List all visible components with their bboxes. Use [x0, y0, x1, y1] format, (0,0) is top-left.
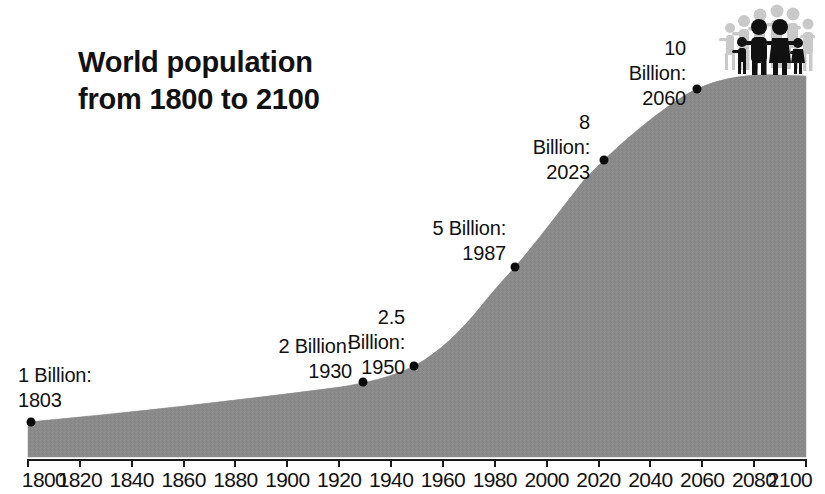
data-point-1803[interactable]	[27, 418, 36, 427]
x-axis-label-2100: 2100	[768, 468, 812, 492]
x-axis-label-2060: 2060	[680, 468, 724, 492]
x-axis-label-2020: 2020	[576, 468, 620, 492]
x-axis-tick-1840	[131, 459, 133, 467]
people-group-icon	[718, 2, 818, 78]
x-axis-tick-1820	[79, 459, 81, 467]
annotation-1-billion-1803: 1 Billion: 1803	[18, 363, 92, 413]
x-axis-line	[28, 459, 806, 461]
x-axis-label-1880: 1880	[213, 468, 257, 492]
data-point-1950[interactable]	[410, 362, 419, 371]
x-axis-label-1840: 1840	[110, 468, 154, 492]
x-axis-label-1920: 1920	[317, 468, 361, 492]
page-title: World population from 1800 to 2100	[78, 44, 320, 118]
x-axis-tick-2100	[805, 459, 807, 467]
x-axis-tick-2000	[546, 459, 548, 467]
x-axis-tick-1860	[183, 459, 185, 467]
annotation-10-billion-2060: 10 Billion: 2060	[608, 36, 686, 111]
x-axis-tick-2080	[753, 459, 755, 467]
annotation-5-billion-1987: 5 Billion: 1987	[430, 216, 506, 266]
x-axis-label-2000: 2000	[524, 468, 568, 492]
x-axis-label-1820: 1820	[58, 468, 102, 492]
world-population-chart: World population from 1800 to 2100	[0, 0, 825, 494]
x-axis-label-2040: 2040	[628, 468, 672, 492]
x-axis-tick-2060	[701, 459, 703, 467]
x-axis-tick-1980	[494, 459, 496, 467]
data-point-2060[interactable]	[693, 85, 702, 94]
x-axis-label-1860: 1860	[161, 468, 205, 492]
data-point-1987[interactable]	[511, 263, 520, 272]
data-point-2023[interactable]	[600, 156, 609, 165]
x-axis-label-1900: 1900	[265, 468, 309, 492]
x-axis-label-1960: 1960	[421, 468, 465, 492]
x-axis-tick-1880	[234, 459, 236, 467]
x-axis-tick-1960	[442, 459, 444, 467]
x-axis-tick-2020	[598, 459, 600, 467]
x-axis-tick-1900	[286, 459, 288, 467]
annotation-2-5-billion-1950: 2.5 Billion: 1950	[345, 305, 405, 380]
x-axis-tick-2040	[649, 459, 651, 467]
annotation-2-billion-1930: 2 Billion: 1930	[260, 334, 352, 384]
annotation-8-billion-2023: 8 Billion: 2023	[520, 110, 590, 185]
x-axis-tick-1920	[338, 459, 340, 467]
x-axis-tick-1800	[27, 459, 29, 467]
x-axis-label-1940: 1940	[369, 468, 413, 492]
x-axis-tick-1940	[390, 459, 392, 467]
x-axis-label-1980: 1980	[473, 468, 517, 492]
